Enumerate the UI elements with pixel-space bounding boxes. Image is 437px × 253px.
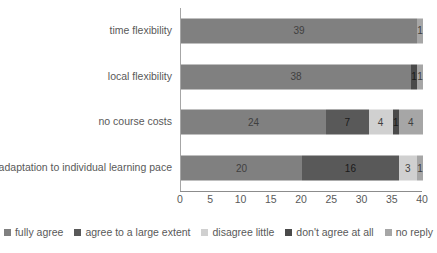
x-axis-tick: 0 xyxy=(177,193,183,206)
segment-value-label: 24 xyxy=(248,117,259,127)
x-axis-tick: 5 xyxy=(207,193,213,206)
x-axis-tick: 10 xyxy=(235,193,247,206)
bar-segment: 16 xyxy=(302,156,399,181)
bar-row: adaptation to individual learning pace20… xyxy=(180,145,422,191)
stacked-bar-chart: time flexibility391local flexibility3811… xyxy=(0,0,437,253)
bar-segment: 4 xyxy=(399,110,423,135)
legend-swatch-icon xyxy=(4,229,11,236)
legend-swatch-icon xyxy=(74,229,81,236)
segment-value-label: 38 xyxy=(290,72,301,82)
x-axis-tick: 25 xyxy=(325,193,337,206)
stacked-bar: 247414 xyxy=(181,110,423,135)
stacked-bar: 201631 xyxy=(181,156,423,181)
legend-label: no reply xyxy=(396,226,433,239)
stacked-bar: 391 xyxy=(181,18,423,43)
x-axis-tick: 20 xyxy=(295,193,307,206)
segment-value-label: 1 xyxy=(417,72,423,82)
x-axis-tick: 35 xyxy=(386,193,398,206)
legend-swatch-icon xyxy=(201,229,208,236)
bar-segment: 20 xyxy=(181,156,302,181)
category-label: no course costs xyxy=(98,117,172,129)
bar-segment: 38 xyxy=(181,64,411,89)
segment-value-label: 20 xyxy=(236,163,247,173)
legend-item[interactable]: fully agree xyxy=(4,226,63,239)
legend-swatch-icon xyxy=(285,229,292,236)
segment-value-label: 16 xyxy=(345,163,356,173)
x-axis-tick: 15 xyxy=(265,193,277,206)
legend-label: don't agree at all xyxy=(296,226,373,239)
category-label: time flexibility xyxy=(110,25,172,37)
bar-segment: 3 xyxy=(399,156,417,181)
segment-value-label: 3 xyxy=(405,163,411,173)
x-axis-tick: 40 xyxy=(416,193,428,206)
category-label: local flexibility xyxy=(108,71,172,83)
legend-item[interactable]: disagree little xyxy=(201,226,274,239)
legend-item[interactable]: agree to a large extent xyxy=(74,226,190,239)
segment-value-label: 1 xyxy=(417,163,423,173)
category-label: adaptation to individual learning pace xyxy=(0,162,172,174)
bar-row: no course costs247414 xyxy=(180,100,422,146)
segment-value-label: 7 xyxy=(345,117,351,127)
segment-value-label: 1 xyxy=(417,26,423,36)
legend-label: agree to a large extent xyxy=(85,226,190,239)
segment-value-label: 1 xyxy=(411,72,417,82)
x-axis-line xyxy=(180,191,422,192)
bar-segment: 39 xyxy=(181,18,417,43)
chart-legend: fully agreeagree to a large extentdisagr… xyxy=(0,226,437,239)
bar-segment: 1 xyxy=(417,18,423,43)
legend-item[interactable]: don't agree at all xyxy=(285,226,373,239)
legend-swatch-icon xyxy=(385,229,392,236)
x-axis-tick: 30 xyxy=(356,193,368,206)
segment-value-label: 4 xyxy=(378,117,384,127)
segment-value-label: 1 xyxy=(393,117,399,127)
x-axis-tick-labels: 0510152025303540 xyxy=(180,193,422,209)
bar-row: time flexibility391 xyxy=(180,8,422,54)
stacked-bar: 3811 xyxy=(181,64,423,89)
legend-label: fully agree xyxy=(15,226,63,239)
bar-segment: 1 xyxy=(417,64,423,89)
segment-value-label: 39 xyxy=(293,26,304,36)
legend-label: disagree little xyxy=(212,226,274,239)
plot-area: time flexibility391local flexibility3811… xyxy=(180,8,422,191)
bar-segment: 24 xyxy=(181,110,326,135)
bar-row: local flexibility3811 xyxy=(180,54,422,100)
bar-segment: 7 xyxy=(326,110,368,135)
bar-segment: 1 xyxy=(417,156,423,181)
bar-segment: 4 xyxy=(369,110,393,135)
segment-value-label: 4 xyxy=(408,117,414,127)
legend-item[interactable]: no reply xyxy=(385,226,433,239)
